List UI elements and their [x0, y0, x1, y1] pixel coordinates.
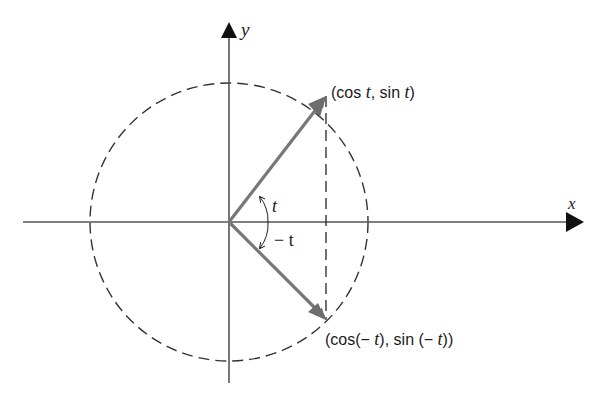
label-text: ), sin (− — [379, 331, 437, 348]
angle-minus-t-label: − t — [274, 231, 294, 249]
y-axis-arrow-icon — [221, 22, 237, 38]
label-text: ) — [410, 84, 415, 101]
label-text: )) — [443, 331, 454, 348]
x-axis-label: x — [568, 195, 576, 212]
angle-arc-t — [260, 197, 268, 222]
unit-circle-diagram: y x t − t (cos t, sin t) (cos(− t), sin … — [0, 0, 598, 397]
x-axis-arrow-icon — [566, 212, 584, 232]
lower-point-label: (cos(− t), sin (− t)) — [325, 330, 453, 348]
y-axis-label: y — [241, 20, 249, 39]
angle-t-label: t — [272, 197, 277, 215]
upper-point-label: (cos t, sin t) — [331, 83, 415, 101]
label-text: (cos(− — [325, 331, 374, 348]
label-text: , sin — [371, 84, 405, 101]
angle-arc-minus-t — [260, 222, 268, 248]
diagram-canvas — [0, 0, 598, 397]
label-text: (cos — [331, 84, 366, 101]
